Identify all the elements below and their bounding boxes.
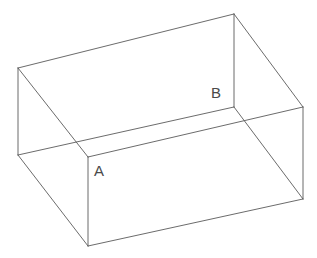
edge-bottom-left-side [18, 155, 88, 246]
edge-top-rim-back-right [234, 14, 303, 107]
edge-bottom-front-side [88, 199, 303, 246]
box-diagram-canvas: A B [0, 0, 317, 258]
vertex-label-b: B [211, 85, 221, 100]
vertex-label-a: A [94, 163, 104, 178]
wireframe-box-svg [0, 0, 317, 258]
edge-top-rim-back-left [18, 14, 234, 68]
edge-top-rim-front-left [18, 68, 88, 157]
edge-inner-floor-right [234, 107, 303, 199]
